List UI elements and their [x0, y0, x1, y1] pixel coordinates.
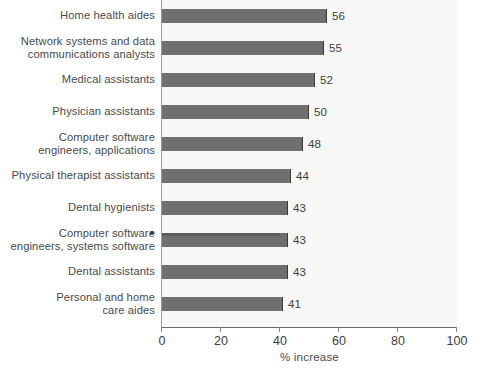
category-label-line: engineers, applications	[38, 144, 155, 157]
category-label-line: Physical therapist assistants	[12, 169, 155, 182]
bar-value-label: 52	[315, 73, 333, 87]
bar[interactable]	[162, 297, 283, 311]
category-label-line: Medical assistants	[62, 73, 155, 86]
bar-value-label: 48	[303, 137, 321, 151]
bar[interactable]	[162, 9, 327, 23]
bar-track: 43	[162, 224, 457, 256]
bar-value-label: 43	[288, 201, 306, 215]
bar-track: 50	[162, 96, 457, 128]
x-axis-tick	[279, 327, 280, 332]
category-label: Computer software engineers, systems sof…	[0, 224, 155, 256]
bar-track: 52	[162, 64, 457, 96]
category-label-line: Personal and home	[56, 291, 155, 304]
x-axis-line	[161, 327, 457, 328]
bar-value-label: 43	[288, 233, 306, 247]
x-axis-tick-label: 100	[447, 334, 468, 348]
bar-value-label: 44	[291, 169, 309, 183]
table-row: Physical therapist assistants 44	[0, 160, 483, 192]
scan-artifact-dot	[150, 231, 154, 235]
category-label: Personal and home care aides	[0, 288, 155, 320]
bar-track: 43	[162, 256, 457, 288]
bar-track: 48	[162, 128, 457, 160]
table-row: Network systems and data communications …	[0, 32, 483, 64]
table-row: Physician assistants 50	[0, 96, 483, 128]
table-row: Dental assistants 43	[0, 256, 483, 288]
category-label: Physician assistants	[0, 96, 155, 128]
bar-track: 44	[162, 160, 457, 192]
bar-track: 43	[162, 192, 457, 224]
bar-value-label: 41	[283, 297, 301, 311]
x-axis-tick-label: 60	[332, 334, 346, 348]
bar-value-label: 50	[309, 105, 327, 119]
category-label: Medical assistants	[0, 64, 155, 96]
bar[interactable]	[162, 201, 288, 215]
bar[interactable]	[162, 73, 315, 87]
x-axis-tick	[456, 327, 457, 332]
bar-value-label: 56	[327, 9, 345, 23]
x-axis-tick-label: 40	[273, 334, 287, 348]
category-label: Dental hygienists	[0, 192, 155, 224]
table-row: Home health aides 56	[0, 0, 483, 32]
category-label-line: Dental assistants	[68, 265, 155, 278]
category-label-line: Computer software	[59, 227, 155, 240]
category-label-line: Physician assistants	[52, 105, 155, 118]
bar[interactable]	[162, 137, 303, 151]
x-axis-tick	[397, 327, 398, 332]
category-label: Physical therapist assistants	[0, 160, 155, 192]
scan-artifact-streak	[162, 233, 280, 236]
x-axis-tick-label: 0	[159, 334, 166, 348]
table-row: Computer software engineers, application…	[0, 128, 483, 160]
category-label-line: care aides	[102, 304, 155, 317]
x-axis-tick-label: 20	[214, 334, 228, 348]
bar-value-label: 55	[324, 41, 342, 55]
table-row: Medical assistants 52	[0, 64, 483, 96]
bar[interactable]	[162, 105, 309, 119]
bar[interactable]	[162, 169, 291, 183]
bar-value-label: 43	[288, 265, 306, 279]
bar-chart-figure: Home health aides 56 Network systems and…	[0, 0, 483, 371]
category-label-line: Home health aides	[60, 9, 155, 22]
category-label: Home health aides	[0, 0, 155, 32]
bar-track: 55	[162, 32, 457, 64]
x-axis-title: % increase	[162, 351, 457, 363]
category-label-line: communications analysts	[28, 48, 155, 61]
category-label-line: Dental hygienists	[68, 201, 155, 214]
x-axis-tick	[161, 327, 162, 332]
x-axis-tick-label: 80	[391, 334, 405, 348]
category-label: Computer software engineers, application…	[0, 128, 155, 160]
bar[interactable]	[162, 265, 288, 279]
table-row: Personal and home care aides 41	[0, 288, 483, 320]
category-label-line: Computer software	[59, 131, 155, 144]
bar[interactable]	[162, 41, 324, 55]
x-axis-tick	[220, 327, 221, 332]
category-label-line: Network systems and data	[21, 35, 155, 48]
category-label: Dental assistants	[0, 256, 155, 288]
y-axis-line	[161, 0, 162, 328]
bar-track: 41	[162, 288, 457, 320]
table-row: Computer software engineers, systems sof…	[0, 224, 483, 256]
table-row: Dental hygienists 43	[0, 192, 483, 224]
category-label-line: engineers, systems software	[11, 240, 155, 253]
bar-track: 56	[162, 0, 457, 32]
category-label: Network systems and data communications …	[0, 32, 155, 64]
x-axis-tick	[338, 327, 339, 332]
